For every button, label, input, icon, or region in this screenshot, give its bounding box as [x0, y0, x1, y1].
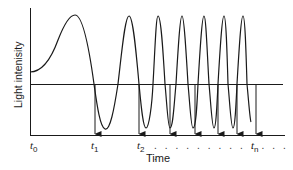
- x-axis-label: Time: [146, 152, 170, 164]
- time-label-t1: t1: [91, 139, 99, 154]
- time-label-tn: tn: [251, 139, 259, 154]
- ellipsis-dots: . . . . . . . . . . . . . .: [154, 140, 293, 162]
- time-label-t0: t0: [30, 139, 38, 154]
- y-axis-label: Light intenisity: [12, 41, 24, 108]
- time-label-t2: t2: [137, 139, 145, 154]
